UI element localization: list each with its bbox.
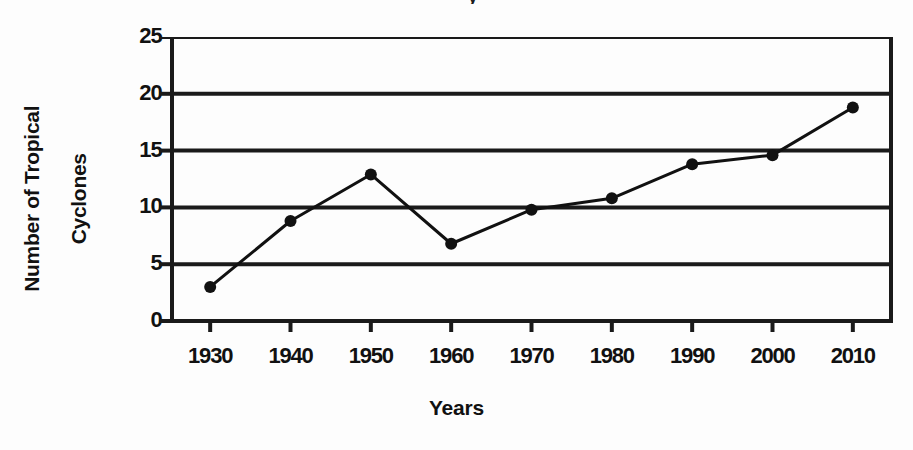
cropped-title-fragment: y [468, 0, 482, 4]
y-axis-title: Number of Tropical Cyclones [0, 49, 114, 349]
x-axis-tick-labels: 193019401950196019701980199020002010 [0, 345, 913, 375]
data-point-marker [606, 192, 618, 204]
x-axis-tick-label: 1930 [165, 345, 255, 367]
y-axis-title-line-1: Number of Tropical [20, 49, 44, 349]
data-point-marker [365, 168, 377, 180]
data-point-marker [526, 204, 538, 216]
x-axis-tick-label: 2000 [728, 345, 818, 367]
plot-area [170, 37, 893, 321]
data-point-marker [767, 149, 779, 161]
data-point-marker [847, 101, 859, 113]
data-series-line [210, 107, 853, 286]
x-axis-tick-label: 1960 [406, 345, 496, 367]
x-axis-tick-label: 1980 [567, 345, 657, 367]
x-axis-tick-label: 1970 [487, 345, 577, 367]
y-axis-title-line-2: Cyclones [67, 49, 91, 349]
plot-svg [154, 37, 909, 337]
x-axis-tick-label: 1990 [647, 345, 737, 367]
data-point-marker [285, 215, 297, 227]
x-axis-title: Years [0, 396, 913, 420]
x-axis-tick-label: 1950 [326, 345, 416, 367]
x-axis-tick-label: 1940 [246, 345, 336, 367]
data-point-marker [445, 238, 457, 250]
chart-figure: y Number of Tropical Cyclones 0510152025… [0, 0, 913, 450]
data-point-marker [686, 158, 698, 170]
data-point-marker [204, 281, 216, 293]
x-axis-tick-label: 2010 [808, 345, 898, 367]
